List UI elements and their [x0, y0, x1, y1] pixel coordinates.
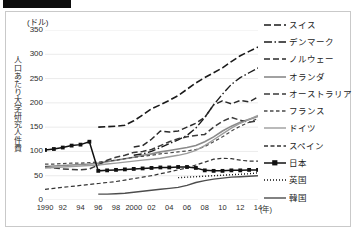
legend-label: 韓国	[289, 193, 307, 203]
x-tick-label: 94	[76, 203, 84, 212]
x-tick-label: 98	[112, 203, 120, 212]
series-marker	[52, 147, 56, 151]
legend-label: 日本	[289, 158, 307, 168]
y-axis-ticks: 050100150200250300350	[12, 0, 43, 232]
series-line	[45, 117, 258, 169]
legend-label: ノルウェー	[289, 54, 334, 64]
legend-swatch-icon	[264, 37, 286, 47]
legend-label: 英国	[289, 175, 307, 185]
x-tick-label: 1990	[37, 203, 54, 212]
y-tick-label: 200	[17, 99, 43, 107]
series-marker	[212, 169, 216, 173]
series-line	[98, 47, 258, 127]
legend-label: オランダ	[289, 72, 325, 82]
series-marker	[238, 168, 242, 172]
x-tick-label: 2000	[125, 203, 142, 212]
series-marker	[70, 144, 74, 148]
x-tick-label: 92	[59, 203, 67, 212]
series-marker	[96, 169, 100, 173]
y-tick-label: 300	[17, 50, 43, 58]
legend-item[interactable]: 韓国	[264, 189, 352, 206]
series-marker	[229, 168, 233, 172]
legend-swatch-icon	[264, 20, 286, 30]
series-marker	[221, 169, 225, 173]
legend-swatch-icon	[264, 175, 286, 185]
legend-swatch-icon	[264, 193, 286, 203]
y-tick-label: 100	[17, 147, 43, 155]
x-tick-label: 06	[183, 203, 191, 212]
series-marker	[141, 167, 145, 171]
y-tick-label: 150	[17, 123, 43, 131]
legend-item[interactable]: フランス	[264, 102, 352, 119]
series-marker	[105, 168, 109, 172]
legend-swatch-icon	[264, 89, 286, 99]
legend-swatch-icon	[264, 141, 286, 151]
series-marker	[87, 140, 91, 144]
legend-swatch-icon	[264, 123, 286, 133]
legend-swatch-icon	[264, 72, 286, 82]
legend-label: フランス	[289, 106, 325, 116]
plot-area	[45, 30, 258, 200]
series-marker	[150, 166, 154, 170]
legend: スイスデンマークノルウェーオランダオーストラリアフランスドイツスペイン日本英国韓…	[264, 16, 352, 206]
legend-label: デンマーク	[289, 37, 334, 47]
x-tick-label: 96	[94, 203, 102, 212]
series-marker	[256, 168, 258, 172]
legend-swatch-icon	[264, 106, 286, 116]
legend-label: スイス	[289, 20, 316, 30]
series-marker	[158, 166, 162, 170]
legend-label: スペイン	[289, 141, 324, 151]
series-line	[134, 68, 258, 155]
legend-swatch-icon	[264, 158, 286, 168]
series-marker	[247, 168, 251, 172]
series-marker	[79, 143, 83, 147]
legend-swatch-icon	[264, 54, 286, 64]
legend-item[interactable]: 日本	[264, 154, 352, 171]
legend-label: ドイツ	[289, 123, 316, 133]
series-marker	[167, 166, 171, 170]
legend-item[interactable]: ノルウェー	[264, 51, 352, 68]
series-marker	[194, 166, 198, 170]
series-line	[45, 118, 258, 164]
series-marker	[203, 168, 207, 172]
plot-svg	[45, 30, 258, 200]
legend-item[interactable]: デンマーク	[264, 33, 352, 50]
series-marker	[185, 165, 189, 169]
series-marker	[114, 168, 118, 172]
legend-label: オーストラリア	[289, 89, 352, 99]
series-marker	[132, 167, 136, 171]
x-axis-ticks: 199092949698200002040608101214	[45, 203, 258, 217]
series-marker	[176, 165, 180, 169]
x-tick-label: 02	[147, 203, 155, 212]
series-marker	[61, 146, 65, 150]
legend-item[interactable]: オランダ	[264, 68, 352, 85]
x-tick-label: 08	[201, 203, 209, 212]
legend-item[interactable]: オーストラリア	[264, 85, 352, 102]
series-marker	[45, 148, 47, 152]
legend-item[interactable]: 英国	[264, 172, 352, 189]
chart-screenshot: (ドル) 人口あたり大学研究人件費 050100150200250300350 …	[0, 0, 356, 232]
series-line	[98, 176, 258, 194]
y-tick-label: 50	[17, 172, 43, 180]
legend-item[interactable]: スペイン	[264, 137, 352, 154]
y-tick-label: 250	[17, 75, 43, 83]
y-tick-label: 350	[17, 26, 43, 34]
legend-item[interactable]: スイス	[264, 16, 352, 33]
series-line	[45, 115, 258, 167]
x-tick-label: 10	[218, 203, 226, 212]
legend-item[interactable]: ドイツ	[264, 120, 352, 137]
x-tick-label: 04	[165, 203, 173, 212]
series-marker	[123, 168, 127, 172]
x-tick-label: 12	[236, 203, 244, 212]
